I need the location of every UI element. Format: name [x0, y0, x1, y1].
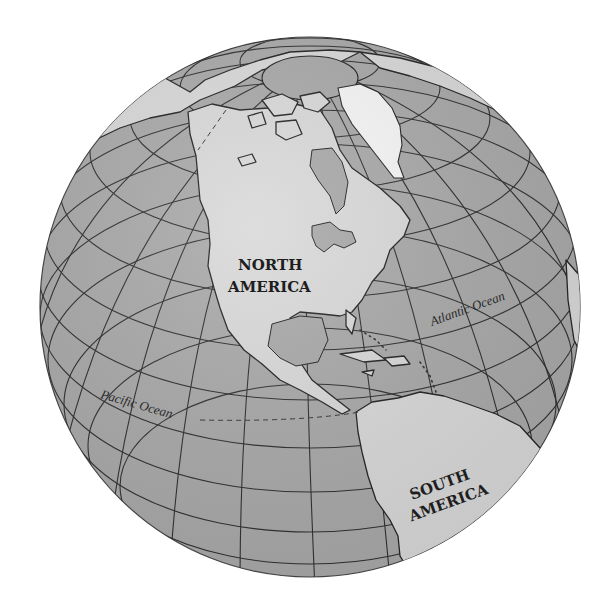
label-north-america-2: AMERICA — [227, 278, 311, 296]
label-north-america-1: NORTH — [238, 256, 302, 274]
globe-svg: NORTH AMERICA SOUTH AMERICA Atlantic Oce… — [0, 0, 614, 606]
globe-shading — [40, 37, 580, 577]
globe-map: NORTH AMERICA SOUTH AMERICA Atlantic Oce… — [0, 0, 614, 606]
